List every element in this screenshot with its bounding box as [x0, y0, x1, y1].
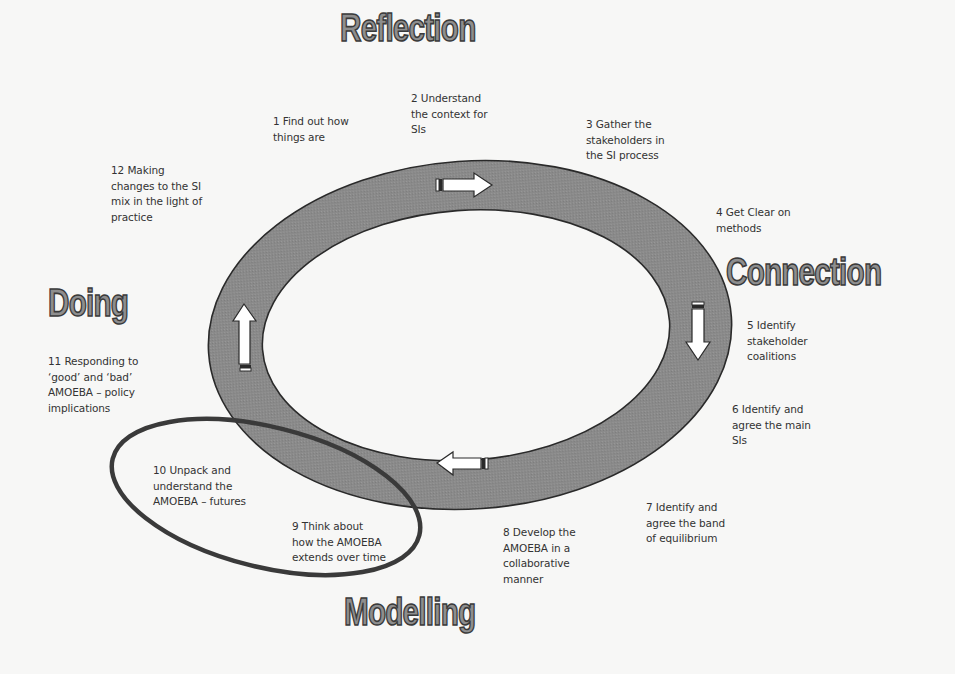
phase-heading-connection: Connection: [726, 252, 881, 292]
step-1-label: 1 Find out how things are: [273, 114, 349, 145]
amoeba-cycle-diagram: Reflection Connection Modelling Doing 1 …: [0, 0, 955, 674]
step-3-label: 3 Gather the stakeholders in the SI proc…: [586, 117, 665, 164]
step-4-label: 4 Get Clear on methods: [716, 205, 791, 236]
step-7-label: 7 Identify and agree the band of equilib…: [646, 500, 725, 547]
phase-heading-doing: Doing: [48, 283, 128, 323]
step-11-label: 11 Responding to ‘good’ and ‘bad’ AMOEBA…: [48, 354, 138, 416]
phase-heading-modelling: Modelling: [344, 592, 475, 632]
step-9-label: 9 Think about how the AMOEBA extends ove…: [292, 519, 386, 566]
step-10-label: 10 Unpack and understand the AMOEBA – fu…: [153, 463, 246, 510]
step-6-label: 6 Identify and agree the main SIs: [732, 402, 811, 449]
step-12-label: 12 Making changes to the SI mix in the l…: [111, 163, 202, 225]
step-5-label: 5 Identify stakeholder coalitions: [747, 318, 808, 365]
step-2-label: 2 Understand the context for SIs: [411, 91, 487, 138]
phase-heading-reflection: Reflection: [340, 8, 475, 48]
step-8-label: 8 Develop the AMOEBA in a collaborative …: [503, 525, 576, 587]
